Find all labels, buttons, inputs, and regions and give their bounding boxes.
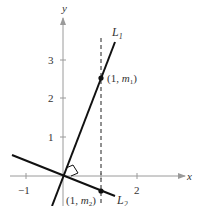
perpendicular-lines-diagram: −1 2 1 2 3 x y L1 L2 (1, m1) (1, m2)	[0, 0, 207, 206]
point-label-m2: (1, m2)	[66, 194, 96, 206]
line-l1	[52, 42, 115, 206]
line-l1-label: L1	[111, 25, 123, 41]
y-tick-label: 2	[48, 92, 54, 104]
point-1-m2	[98, 188, 103, 193]
x-tick-label: −1	[18, 184, 30, 196]
x-axis-label: x	[186, 170, 192, 182]
x-axis	[10, 173, 185, 179]
point-1-m1	[98, 75, 103, 80]
line-l2-label: L2	[116, 193, 128, 206]
point-label-m1: (1, m1)	[107, 72, 137, 86]
y-axis-label: y	[61, 2, 67, 14]
y-tick-label: 3	[48, 54, 54, 66]
y-tick-label: 1	[48, 131, 54, 143]
x-tick-label: 2	[134, 184, 140, 196]
